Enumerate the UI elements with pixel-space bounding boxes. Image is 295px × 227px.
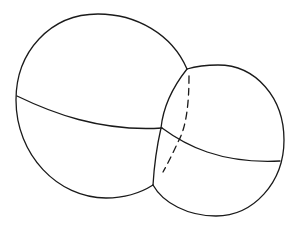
intersection-arc-hidden bbox=[163, 76, 189, 172]
large-sphere-outline bbox=[16, 14, 187, 198]
small-sphere-equator bbox=[162, 128, 280, 161]
intersection-arc-front bbox=[153, 69, 187, 185]
spheres-diagram bbox=[0, 0, 295, 227]
small-sphere-outline bbox=[153, 65, 284, 216]
large-sphere-equator bbox=[17, 96, 162, 129]
